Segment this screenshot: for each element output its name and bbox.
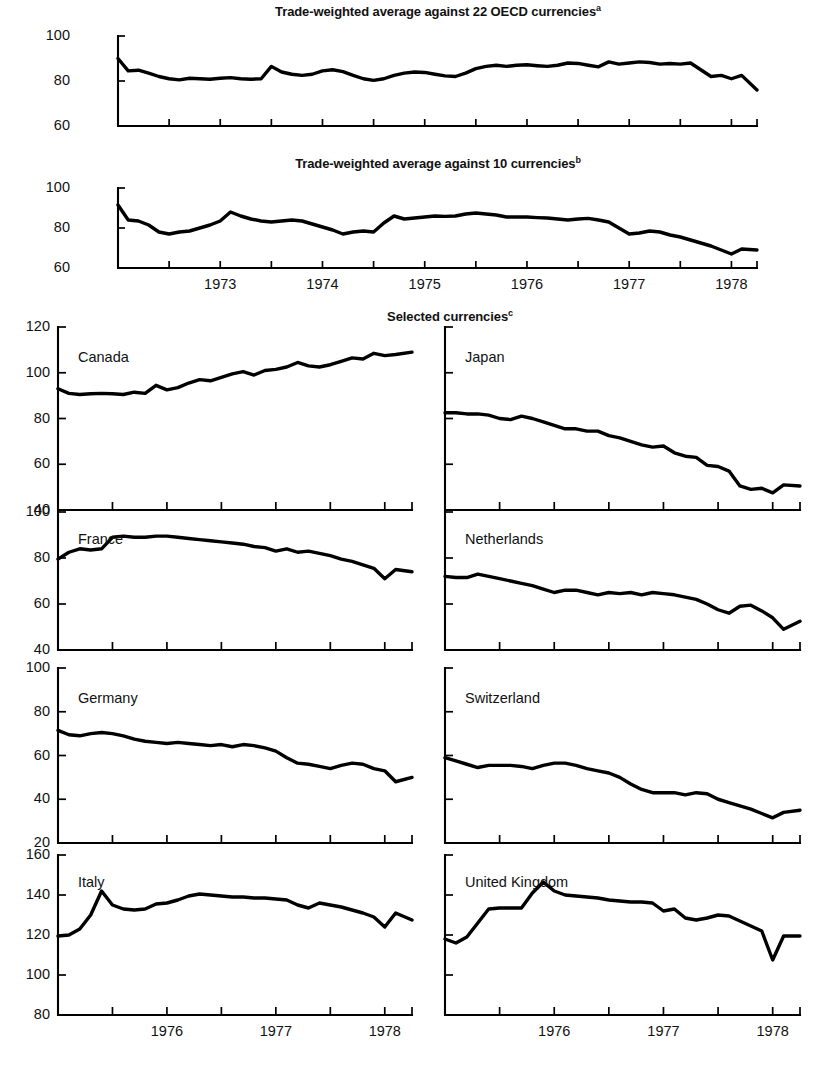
trace-italy [58,891,412,936]
series-label-germany: Germany [78,690,138,706]
xtick-label-curr10-1976: 1976 [487,276,567,292]
series-label-italy: Italy [78,874,105,890]
ytick-label-curr10-80: 80 [24,219,70,235]
xtick-label-curr10-1974: 1974 [282,276,362,292]
panel-title-oecd22-superscript: a [596,3,601,13]
axis-frame-italy [58,855,412,1015]
trace-united-kingdom [445,882,800,960]
ytick-label-italy-140: 140 [4,886,50,902]
series-label-japan: Japan [465,349,505,365]
series-label-switzerland: Switzerland [465,690,540,706]
panel-title-selected-currencies: Selected currenciesc [230,309,670,324]
ytick-label-curr10-100: 100 [24,179,70,195]
trace-japan [445,413,800,493]
panel-title-selected-currencies-superscript: c [508,308,513,318]
panel-title-oecd22-text: Trade-weighted average against 22 OECD c… [275,4,596,19]
ytick-label-germany-100: 100 [4,659,50,675]
ytick-label-canada-100: 100 [4,364,50,380]
ytick-label-canada-60: 60 [4,455,50,471]
xtick-label-united-kingdom-1976: 1976 [514,1023,594,1039]
trace-oecd22 [118,59,757,91]
chart-panel-oecd22 [118,36,757,126]
trace-germany [58,730,412,781]
ytick-label-france-40: 40 [4,641,50,657]
xtick-label-curr10-1978: 1978 [691,276,771,292]
trace-curr10 [118,205,757,254]
ytick-label-france-60: 60 [4,595,50,611]
ytick-label-italy-120: 120 [4,926,50,942]
trace-netherlands [445,574,800,629]
ytick-label-germany-80: 80 [4,703,50,719]
xtick-label-curr10-1973: 1973 [180,276,260,292]
ytick-label-france-80: 80 [4,549,50,565]
ytick-label-oecd22-80: 80 [24,72,70,88]
xtick-label-united-kingdom-1977: 1977 [623,1023,703,1039]
xtick-label-curr10-1977: 1977 [589,276,669,292]
ytick-label-italy-100: 100 [4,966,50,982]
series-label-united-kingdom: United Kingdom [465,874,568,890]
ytick-label-italy-160: 160 [4,846,50,862]
ytick-label-italy-80: 80 [4,1006,50,1022]
ytick-label-france-100: 100 [4,503,50,519]
ytick-label-germany-60: 60 [4,747,50,763]
ytick-label-germany-40: 40 [4,790,50,806]
ytick-label-oecd22-100: 100 [24,27,70,43]
chart-panel-italy [58,855,412,1015]
series-label-france: France [78,531,123,547]
axis-frame-oecd22 [118,36,757,126]
xtick-label-italy-1977: 1977 [236,1023,316,1039]
xtick-label-italy-1976: 1976 [127,1023,207,1039]
panel-title-curr10: Trade-weighted average against 10 curren… [118,156,758,171]
panel-title-selected-currencies-text: Selected currencies [387,309,508,324]
xtick-label-curr10-1975: 1975 [385,276,465,292]
ytick-label-curr10-60: 60 [24,259,70,275]
panel-title-curr10-text: Trade-weighted average against 10 curren… [295,156,575,171]
ytick-label-oecd22-60: 60 [24,117,70,133]
currency-index-figure: Trade-weighted average against 22 OECD c… [0,0,830,1068]
chart-panel-curr10 [118,188,757,268]
xtick-label-united-kingdom-1978: 1978 [733,1023,813,1039]
xtick-label-italy-1978: 1978 [345,1023,425,1039]
panel-title-curr10-superscript: b [575,155,580,165]
ytick-label-canada-120: 120 [4,318,50,334]
ytick-label-canada-80: 80 [4,410,50,426]
axis-frame-curr10 [118,188,757,268]
series-label-canada: Canada [78,349,129,365]
series-label-netherlands: Netherlands [465,531,543,547]
trace-switzerland [445,758,800,818]
panel-title-oecd22: Trade-weighted average against 22 OECD c… [118,4,758,19]
